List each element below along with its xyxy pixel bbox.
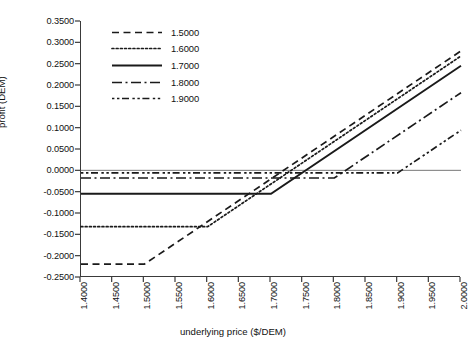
x-tick-label: 1.7000 xyxy=(269,282,279,310)
legend-line-swatch-solid xyxy=(112,60,162,71)
x-tick-label: 1.4000 xyxy=(79,282,89,310)
y-tick-label: 0.2500 xyxy=(46,59,74,69)
y-tick-label: 0.1000 xyxy=(46,123,74,133)
legend-item-1.8000[interactable]: 1.8000 xyxy=(112,74,199,91)
legend-item-1.7000[interactable]: 1.7000 xyxy=(112,57,199,74)
x-tick-label: 1.5500 xyxy=(174,282,184,310)
series-line-1.9000 xyxy=(81,130,461,173)
legend-label: 1.9000 xyxy=(171,93,199,104)
y-tick-label: 0.1500 xyxy=(46,101,74,111)
x-tick-label: 1.9500 xyxy=(427,282,437,310)
y-tick-label: -0.1000 xyxy=(44,208,74,218)
x-tick-label: 1.4500 xyxy=(111,282,121,310)
legend-item-1.5000[interactable]: 1.5000 xyxy=(112,24,199,41)
x-axis-title: underlying price ($/DEM) xyxy=(0,326,466,337)
legend-label: 1.7000 xyxy=(171,60,199,71)
x-tick-label: 1.5000 xyxy=(142,282,152,310)
y-tick-label: -0.1500 xyxy=(44,229,74,239)
legend-line-swatch-dashdotdot xyxy=(112,93,162,104)
legend-line-swatch-dashed xyxy=(112,27,162,38)
legend-line-swatch-dashdot xyxy=(112,77,162,88)
x-tick-label: 1.8500 xyxy=(364,282,374,310)
x-tick-label: 1.8000 xyxy=(332,282,342,310)
legend-label: 1.6000 xyxy=(171,43,199,54)
legend-item-1.9000[interactable]: 1.9000 xyxy=(112,90,199,107)
x-tick-label: 2.0000 xyxy=(459,282,469,310)
y-tick-label: -0.0500 xyxy=(44,187,74,197)
x-axis-tick-labels: 1.40001.45001.50001.55001.60001.65001.70… xyxy=(0,282,466,328)
y-tick-label: 0.3500 xyxy=(46,16,74,26)
y-tick-label: 0.0500 xyxy=(46,144,74,154)
legend: 1.50001.60001.70001.80001.9000 xyxy=(112,24,199,107)
x-tick-label: 1.7500 xyxy=(301,282,311,310)
y-tick-label: -0.2500 xyxy=(44,272,74,282)
legend-line-swatch-dotted xyxy=(112,43,162,54)
y-tick-label: 0.0000 xyxy=(46,165,74,175)
legend-item-1.6000[interactable]: 1.6000 xyxy=(112,41,199,58)
y-tick-label: 0.2000 xyxy=(46,80,74,90)
x-tick-label: 1.6000 xyxy=(206,282,216,310)
legend-label: 1.8000 xyxy=(171,77,199,88)
y-tick-label: 0.3000 xyxy=(46,37,74,47)
y-tick-label: -0.2000 xyxy=(44,251,74,261)
legend-label: 1.5000 xyxy=(171,27,199,38)
x-tick-label: 1.9000 xyxy=(396,282,406,310)
x-tick-label: 1.6500 xyxy=(237,282,247,310)
